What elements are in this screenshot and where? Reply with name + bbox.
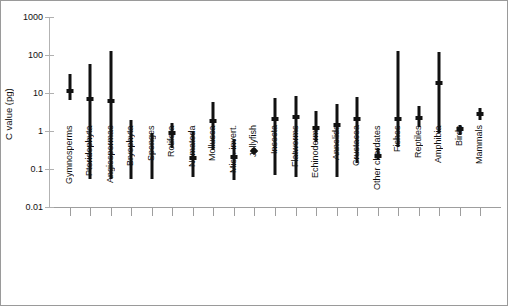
range-bar-misc-invert [233, 139, 236, 181]
mean-marker-reptiles [416, 116, 423, 120]
y-axis-title: C value (pg) [3, 59, 15, 169]
mean-marker-mammals [477, 112, 484, 116]
range-bar-crustacea [356, 97, 359, 164]
x-category-label-mammals: Mammals [475, 125, 484, 213]
mean-marker-fishes [395, 117, 402, 121]
mean-marker-amphibia [436, 81, 443, 85]
x-category-label-amphibia: Amphibia [434, 125, 443, 213]
y-tick-label-100: 100 [0, 51, 43, 60]
mean-marker-annelida [334, 123, 341, 127]
range-bar-angiospermae [110, 51, 113, 179]
range-bar-annelida [336, 104, 339, 177]
range-bar-mollusca [212, 102, 215, 151]
y-tick-label-10: 10 [0, 89, 43, 98]
mean-marker-mollusca [210, 119, 217, 123]
range-bar-amphibia [438, 52, 441, 133]
mean-marker-echinoderms [313, 126, 320, 130]
mean-marker-pteridophyta [87, 97, 94, 101]
range-bar-sponges [151, 133, 154, 179]
range-bar-pteridophyta [89, 64, 92, 179]
x-category-label-birds: Birds [455, 125, 464, 213]
mean-marker-misc-invert [231, 155, 238, 159]
chart-figure: C value (pg) 10001001010.10.01 Gymnosper… [0, 0, 508, 306]
y-tick-label-1000: 1000 [0, 13, 43, 22]
range-bar-gymnosperms [69, 74, 72, 100]
y-tick-0.01 [45, 207, 54, 208]
mean-marker-nematoda [190, 156, 197, 160]
range-bar-flatworms [295, 96, 298, 178]
y-tick-label-0.01: 0.01 [0, 203, 43, 212]
mean-marker-flatworms [293, 115, 300, 119]
range-bar-rotifera [171, 123, 174, 148]
x-category-label-reptiles: Reptiles [414, 125, 423, 213]
mean-marker-birds [457, 127, 464, 131]
mean-marker-rotifera [169, 131, 176, 135]
x-category-label-jellyfish: Jellyfish [249, 125, 258, 213]
mean-marker-angiospermae [108, 99, 115, 103]
mean-marker-other-chordates [375, 154, 382, 158]
mean-marker-crustacea [354, 117, 361, 121]
range-bar-insecta [274, 98, 277, 175]
mean-marker-gymnosperms [67, 89, 74, 93]
x-category-label-other-chordates: Other chordates [373, 125, 382, 213]
y-tick-label-1: 1 [0, 127, 43, 136]
x-category-label-gymnosperms: Gymnosperms [65, 125, 74, 213]
range-bar-fishes [397, 51, 400, 147]
mean-marker-insecta [272, 117, 279, 121]
range-bar-bryophyta [130, 120, 133, 179]
y-tick-label-0.1: 0.1 [0, 165, 43, 174]
